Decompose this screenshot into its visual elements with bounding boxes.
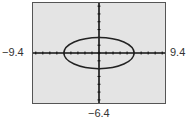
- xmin-label: −9.4: [2, 46, 24, 58]
- ymin-label: −6.4: [88, 107, 110, 119]
- xmax-label: 9.4: [170, 46, 185, 58]
